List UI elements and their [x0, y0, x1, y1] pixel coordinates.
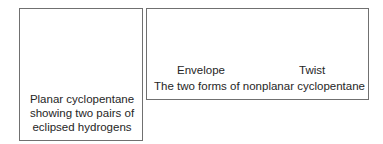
twist-label: Twist — [299, 63, 325, 77]
nonplanar-caption: The two forms of nonplanar cyclopentane — [154, 79, 362, 93]
caption-line-1: Planar cyclopentane — [26, 92, 138, 106]
caption-line-3: eclipsed hydrogens — [26, 120, 138, 134]
caption-line-2: showing two pairs of — [26, 106, 138, 120]
envelope-label: Envelope — [177, 63, 225, 77]
planar-caption: Planar cyclopentane showing two pairs of… — [26, 92, 138, 134]
nonplanar-cyclopentane-panel: Envelope Twist The two forms of nonplana… — [146, 8, 369, 100]
planar-cyclopentane-panel: Planar cyclopentane showing two pairs of… — [19, 8, 143, 141]
